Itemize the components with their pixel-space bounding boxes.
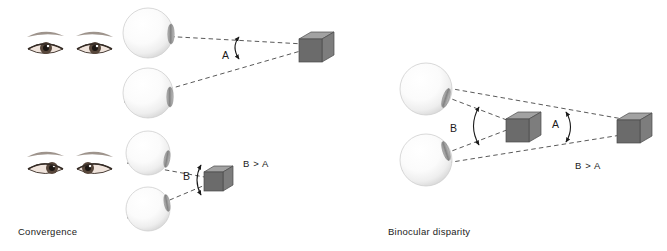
- angle-label-B-convergence: B: [183, 170, 190, 182]
- eyeball-bottom-far: [123, 68, 173, 118]
- cube-near-left-panel: [204, 166, 233, 191]
- eyeball-top-near: [126, 131, 171, 175]
- relation-text-disparity: B > A: [575, 160, 601, 171]
- panel-binocular-disparity: [400, 63, 652, 186]
- panel-caption-binocular-disparity: Binocular disparity: [388, 226, 470, 237]
- cube-far-right-panel: [617, 113, 652, 143]
- cube-near-right-panel: [506, 112, 541, 142]
- lens-bottom-far: [167, 87, 173, 107]
- angle-label-B-disparity: B: [450, 122, 457, 134]
- eyeball-top-far: [123, 8, 174, 58]
- diagram-vector-layer: [0, 0, 667, 251]
- angle-marker-B-right: [474, 107, 480, 145]
- eye-photo-converged-gaze: [22, 141, 118, 188]
- eyeball-upper-right-panel: [400, 63, 452, 115]
- angle-label-A-disparity: A: [552, 118, 559, 130]
- angle-marker-A-right: [566, 112, 571, 142]
- angle-marker-B-left: [197, 165, 201, 195]
- panel-caption-convergence: Convergence: [18, 226, 77, 237]
- angle-label-A-convergence: A: [222, 49, 229, 61]
- eyeball-bottom-near: [126, 187, 171, 231]
- relation-text-convergence: B > A: [243, 158, 269, 169]
- panel-convergence: [123, 8, 334, 231]
- lens-top-far: [168, 24, 174, 44]
- eyeball-lower-right-panel: [400, 134, 452, 186]
- eye-photo-parallel-gaze: [22, 21, 118, 68]
- cube-far-left-panel: [299, 32, 334, 62]
- figure-root: A B B > A Convergence B A B > A Binocula…: [0, 0, 667, 251]
